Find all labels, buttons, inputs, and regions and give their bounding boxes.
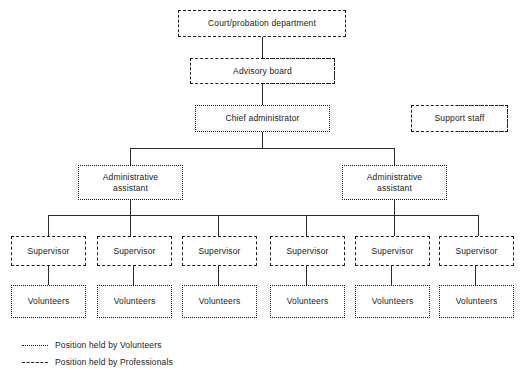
connector-bus-to-admin-right xyxy=(394,148,395,165)
node-volunteers-3[interactable]: Volunteers xyxy=(182,285,257,318)
connector-supervisor-2-to-volunteers xyxy=(133,266,134,285)
connector-admin-right-down xyxy=(394,200,395,215)
connector-bus-to-supervisor-4 xyxy=(306,215,307,236)
node-supervisor-1[interactable]: Supervisor xyxy=(11,236,86,266)
connector-bus-to-admin-left xyxy=(130,148,131,165)
node-volunteers-4[interactable]: Volunteers xyxy=(270,285,345,318)
connector-admin-bus xyxy=(130,148,395,149)
node-volunteers-6[interactable]: Volunteers xyxy=(439,285,514,318)
node-supervisor-5[interactable]: Supervisor xyxy=(355,236,430,266)
connector-supervisor-bus xyxy=(48,215,478,216)
connector-admin-left-down xyxy=(130,200,131,215)
node-supervisor-2[interactable]: Supervisor xyxy=(97,236,172,266)
node-label: Volunteers xyxy=(199,296,241,307)
node-label: Supervisor xyxy=(455,246,497,257)
dashed-line-icon xyxy=(22,362,48,363)
node-label: Volunteers xyxy=(28,296,70,307)
connector-supervisor-5-to-volunteers xyxy=(391,266,392,285)
node-volunteers-5[interactable]: Volunteers xyxy=(355,285,430,318)
dotted-line-icon xyxy=(22,345,48,346)
legend-item-volunteers: Position held by Volunteers xyxy=(22,340,162,350)
node-label: Supervisor xyxy=(113,246,155,257)
node-court-probation-department[interactable]: Court/probation department xyxy=(178,10,346,37)
node-label: Supervisor xyxy=(371,246,413,257)
node-supervisor-6[interactable]: Supervisor xyxy=(439,236,514,266)
node-label: Administrative assistant xyxy=(367,172,422,194)
connector-bus-to-supervisor-2 xyxy=(130,215,131,236)
legend-item-professionals: Position held by Professionals xyxy=(22,357,173,367)
node-label: Volunteers xyxy=(114,296,156,307)
connector-bus-to-supervisor-6 xyxy=(478,215,479,236)
node-label: Chief administrator xyxy=(225,113,299,124)
connector-supervisor-3-to-volunteers xyxy=(218,266,219,285)
node-label: Supervisor xyxy=(27,246,69,257)
connector-court-to-advisory xyxy=(262,37,263,58)
node-volunteers-2[interactable]: Volunteers xyxy=(97,285,172,318)
node-support-staff[interactable]: Support staff xyxy=(411,105,508,132)
node-label: Volunteers xyxy=(456,296,498,307)
node-supervisor-4[interactable]: Supervisor xyxy=(270,236,345,266)
connector-advisory-to-chief xyxy=(262,83,263,105)
node-label: Supervisor xyxy=(198,246,240,257)
node-chief-administrator[interactable]: Chief administrator xyxy=(195,105,330,132)
org-chart: Court/probation department Advisory boar… xyxy=(0,0,523,370)
connector-supervisor-6-to-volunteers xyxy=(475,266,476,285)
node-label: Volunteers xyxy=(372,296,414,307)
connector-bus-to-supervisor-3 xyxy=(218,215,219,236)
node-administrative-assistant-2[interactable]: Administrative assistant xyxy=(342,165,447,200)
node-volunteers-1[interactable]: Volunteers xyxy=(11,285,86,318)
node-advisory-board[interactable]: Advisory board xyxy=(190,58,335,84)
connector-bus-to-supervisor-5 xyxy=(394,215,395,236)
connector-supervisor-4-to-volunteers xyxy=(306,266,307,285)
node-label: Advisory board xyxy=(233,66,292,77)
node-label: Volunteers xyxy=(287,296,329,307)
node-label: Administrative assistant xyxy=(103,172,158,194)
node-supervisor-3[interactable]: Supervisor xyxy=(182,236,257,266)
connector-supervisor-1-to-volunteers xyxy=(48,266,49,285)
legend-label-volunteers: Position held by Volunteers xyxy=(55,340,162,350)
legend-label-professionals: Position held by Professionals xyxy=(55,357,173,367)
connector-bus-to-supervisor-1 xyxy=(48,215,49,236)
connector-chief-down xyxy=(262,132,263,149)
node-label: Support staff xyxy=(435,113,485,124)
node-label: Court/probation department xyxy=(208,18,316,29)
node-administrative-assistant-1[interactable]: Administrative assistant xyxy=(78,165,183,200)
node-label: Supervisor xyxy=(286,246,328,257)
